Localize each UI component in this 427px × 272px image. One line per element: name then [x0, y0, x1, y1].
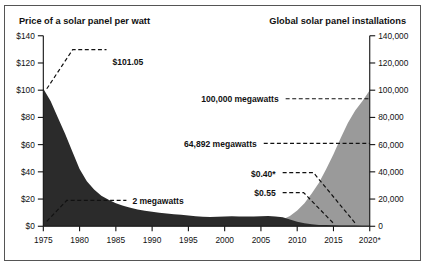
left-value-axis: $0$20$40$60$80$100$120$140 — [16, 31, 43, 231]
left-panel-title: Price of a solar panel per watt — [19, 16, 150, 26]
left-axis-tick-label: $120 — [16, 58, 35, 68]
left-axis-tick-label: $40 — [21, 167, 35, 177]
right-axis-tick-label: 140,000 — [378, 31, 409, 41]
annotation-label: $101.05 — [112, 57, 143, 67]
x-axis-tick-label: 1995 — [179, 235, 198, 245]
left-axis-tick-label: $0 — [26, 221, 36, 231]
annotation-label: 2 megawatts — [132, 196, 184, 206]
annotation-label: 64,892 megawatts — [184, 139, 257, 149]
left-axis-tick-label: $60 — [21, 140, 35, 150]
x-axis-tick-label: 1980 — [70, 235, 89, 245]
x-axis-tick-label: 2015 — [324, 235, 343, 245]
right-axis-tick-label: 80,000 — [378, 112, 404, 122]
plot-areas — [43, 89, 369, 226]
left-axis-tick-label: $80 — [21, 112, 35, 122]
annotation-label: $0.55 — [254, 189, 276, 199]
right-axis-tick-label: 60,000 — [378, 140, 404, 150]
annotation-leader-line — [47, 50, 107, 89]
left-axis-tick-label: $20 — [21, 194, 35, 204]
x-axis-tick-label: 1990 — [143, 235, 162, 245]
left-axis-tick-label: $100 — [16, 85, 35, 95]
right-axis-tick-label: 100,000 — [378, 85, 409, 95]
right-panel-title: Global solar panel installations — [269, 16, 406, 26]
category-axis: 1975198019851990199520002005201020152020… — [34, 226, 381, 245]
annotation-label: $0.40* — [251, 169, 276, 179]
right-axis-tick-label: 40,000 — [378, 167, 404, 177]
right-axis-tick-label: 0 — [378, 221, 383, 231]
x-axis-tick-label: 2020* — [359, 235, 382, 245]
x-axis-tick-label: 1975 — [34, 235, 53, 245]
chart-frame: Price of a solar panel per watt Global s… — [4, 5, 421, 261]
x-axis-tick-label: 2005 — [252, 235, 271, 245]
right-value-axis: 020,00040,00060,00080,000100,000120,0001… — [370, 31, 409, 231]
right-axis-tick-label: 20,000 — [378, 194, 404, 204]
x-axis-tick-label: 1985 — [107, 235, 126, 245]
left-axis-tick-label: $140 — [16, 31, 35, 41]
x-axis-tick-label: 2010 — [288, 235, 307, 245]
right-axis-tick-label: 120,000 — [378, 58, 409, 68]
x-axis-tick-label: 2000 — [215, 235, 234, 245]
annotation-label: 100,000 megawatts — [201, 94, 279, 104]
dual-axis-area-chart: Price of a solar panel per watt Global s… — [5, 6, 420, 260]
